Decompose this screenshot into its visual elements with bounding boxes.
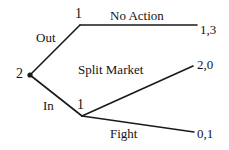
node-label-upper-player-1: 1 xyxy=(75,7,82,21)
action-label-fight: Fight xyxy=(110,127,137,140)
edge-fight xyxy=(82,116,194,132)
payoff-no-action: 1,3 xyxy=(200,23,216,36)
action-label-split-market: Split Market xyxy=(78,63,143,76)
payoff-split-market: 2,0 xyxy=(197,58,213,71)
payoff-fight: 0,1 xyxy=(197,127,213,140)
node-label-root-player-2: 2 xyxy=(16,67,23,81)
game-tree-diagram: 2 1 1 Out In No Action Split Market Figh… xyxy=(0,0,229,150)
action-label-in: In xyxy=(43,99,54,112)
node-label-lower-player-1: 1 xyxy=(77,98,84,112)
action-label-out: Out xyxy=(36,31,56,44)
root-node-dot xyxy=(27,72,32,77)
action-label-no-action: No Action xyxy=(110,9,164,22)
edge-in xyxy=(30,75,82,116)
